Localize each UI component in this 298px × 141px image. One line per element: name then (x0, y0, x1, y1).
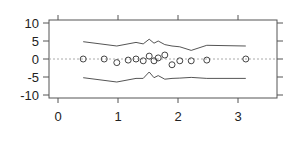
data-point (188, 58, 194, 64)
data-point (162, 52, 168, 58)
data-point (125, 57, 131, 63)
data-point (155, 55, 161, 61)
y-tick-label: 5 (32, 34, 39, 49)
upper-envelope-line (83, 39, 246, 50)
data-point (140, 58, 146, 64)
data-point (114, 60, 120, 66)
x-tick-label: 3 (234, 109, 241, 124)
axes: 01231050-5-10 (20, 15, 283, 124)
lower-envelope-line (83, 72, 246, 82)
envelope-scatter-chart: 01231050-5-10 (0, 0, 298, 141)
x-tick-label: 0 (54, 109, 61, 124)
envelope-lines (83, 39, 246, 82)
x-tick-label: 2 (174, 109, 181, 124)
x-tick-label: 1 (114, 109, 121, 124)
y-tick-label: -5 (27, 70, 39, 85)
y-tick-label: 0 (32, 52, 39, 67)
y-tick-label: -10 (20, 88, 39, 103)
data-point (204, 57, 210, 63)
data-points (80, 52, 249, 68)
y-tick-label: 10 (25, 16, 39, 31)
data-point (177, 58, 183, 64)
data-point (169, 62, 175, 68)
data-point (146, 53, 152, 59)
